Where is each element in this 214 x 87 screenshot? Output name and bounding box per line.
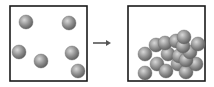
particle bbox=[191, 37, 205, 51]
particle bbox=[138, 47, 152, 61]
particle bbox=[12, 45, 26, 59]
liquid-particles bbox=[138, 30, 205, 80]
gas-particles bbox=[12, 15, 85, 78]
particle bbox=[159, 64, 173, 78]
particle bbox=[138, 66, 152, 80]
particle bbox=[34, 54, 48, 68]
particle bbox=[65, 46, 79, 60]
arrow-icon bbox=[93, 40, 111, 46]
particle bbox=[177, 30, 191, 44]
particle bbox=[62, 16, 76, 30]
particle bbox=[19, 15, 33, 29]
particle bbox=[71, 64, 85, 78]
condensation-diagram bbox=[0, 0, 214, 87]
